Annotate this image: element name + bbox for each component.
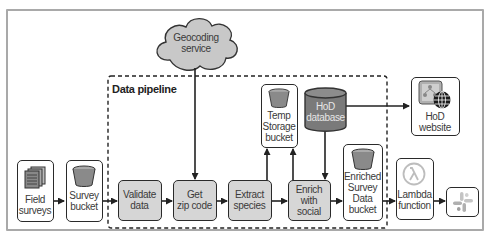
field-surveys-label: Field surveys — [18, 194, 52, 216]
survey-bucket-label: Survey bucket — [67, 190, 101, 212]
temp-storage-label: Temp Storage bucket — [262, 110, 296, 143]
enriched-label-line4: bucket — [344, 204, 381, 215]
zip-label-line1: Get — [174, 189, 215, 200]
survey-bucket-label-line2: bucket — [67, 201, 101, 212]
temp-label-line1: Temp — [262, 110, 296, 121]
survey-bucket-node[interactable]: Survey bucket — [66, 160, 103, 222]
validate-label-line1: Validate — [119, 189, 160, 200]
hod-db-label-line1: HoD — [305, 101, 346, 112]
extract-species-label: Extract species — [229, 189, 270, 211]
get-zip-code-label: Get zip code — [174, 189, 215, 211]
hod-website-node[interactable]: HoD website — [411, 77, 460, 136]
validate-label-line2: data — [119, 200, 160, 211]
lambda-label-line2: function — [397, 200, 432, 211]
lambda-function-node[interactable]: Lambda function — [396, 158, 434, 220]
enriched-bucket-label: Enriched Survey Data bucket — [344, 171, 381, 215]
enriched-survey-data-bucket-node[interactable]: Enriched Survey Data bucket — [343, 144, 383, 221]
field-surveys-node[interactable]: Field surveys — [17, 160, 54, 222]
lambda-label-line1: Lambda — [397, 189, 432, 200]
enrich-label-line1: Enrich — [289, 184, 329, 195]
enrich-with-social-node[interactable]: Enrich with social — [288, 180, 331, 221]
lambda-label: Lambda function — [397, 189, 432, 211]
hod-website-label-line1: HoD — [412, 111, 458, 122]
hod-website-label: HoD website — [412, 111, 458, 133]
enrich-label-line3: social — [289, 206, 329, 217]
enriched-label-line2: Survey — [344, 182, 381, 193]
hod-database-label: HoD database — [305, 101, 346, 123]
hod-db-label-line2: database — [305, 112, 346, 123]
enriched-label-line3: Data — [344, 193, 381, 204]
field-surveys-label-line1: Field — [18, 194, 52, 205]
bucket-icon — [72, 165, 96, 187]
slack-icon — [452, 191, 474, 213]
extract-species-node[interactable]: Extract species — [228, 180, 272, 221]
geocoding-label-line2: service — [170, 43, 222, 54]
documents-icon — [23, 166, 47, 190]
lambda-icon — [402, 162, 426, 186]
get-zip-code-node[interactable]: Get zip code — [173, 180, 217, 221]
survey-bucket-label-line1: Survey — [67, 190, 101, 201]
geocoding-label: Geocoding service — [170, 32, 222, 54]
zip-label-line2: zip code — [174, 200, 215, 211]
temp-storage-bucket-node[interactable]: Temp Storage bucket — [261, 84, 298, 148]
field-surveys-label-line2: surveys — [18, 205, 52, 216]
validate-data-node[interactable]: Validate data — [118, 180, 162, 221]
enriched-label-line1: Enriched — [344, 171, 381, 182]
geocoding-label-line1: Geocoding — [170, 32, 222, 43]
temp-label-line2: Storage — [262, 121, 296, 132]
enrich-label: Enrich with social — [289, 184, 329, 217]
bucket-icon — [268, 88, 290, 108]
bucket-icon — [351, 148, 375, 170]
validate-data-label: Validate data — [119, 189, 160, 211]
extract-label-line2: species — [229, 200, 270, 211]
hod-website-label-line2: website — [412, 122, 458, 133]
enrich-label-line2: with — [289, 195, 329, 206]
temp-label-line3: bucket — [262, 132, 296, 143]
slack-node[interactable] — [446, 187, 479, 217]
extract-label-line1: Extract — [229, 189, 270, 200]
data-pipeline-title: Data pipeline — [112, 83, 177, 95]
website-globe-icon — [418, 80, 452, 110]
